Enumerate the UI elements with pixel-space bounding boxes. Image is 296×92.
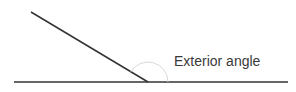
angle-arc [131,62,168,82]
exterior-angle-diagram [0,0,296,92]
slanted-line [31,12,148,82]
exterior-angle-label: Exterior angle [174,53,260,69]
